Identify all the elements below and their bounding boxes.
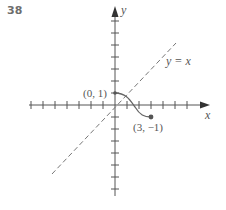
line-label: y = x [165, 54, 191, 68]
line-y-equals-x [52, 43, 176, 174]
end-point [149, 115, 154, 120]
start-point-label: (0, 1) [83, 87, 107, 100]
y-axis-arrow-icon [112, 6, 119, 17]
start-point [113, 91, 117, 95]
x-axis-label: x [204, 108, 211, 122]
end-point-label: (3, −1) [133, 121, 163, 134]
graph: y x y = x (0, 1) (3, −1) [0, 0, 226, 210]
y-axis-label: y [120, 3, 127, 17]
